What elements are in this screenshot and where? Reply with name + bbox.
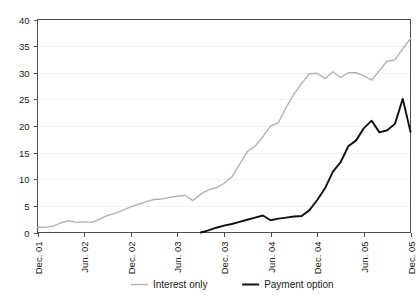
x-axis-tick-labels: Dec. 01Jun. 02Dec. 02Jun. 03Dec. 03Jun. …: [33, 242, 417, 275]
y-tick-label: 5: [24, 201, 29, 212]
y-tick-label: 20: [19, 121, 30, 132]
legend-label: Payment option: [264, 279, 334, 290]
y-tick-label: 25: [19, 94, 30, 105]
line-chart: 0510152025303540 Dec. 01Jun. 02Dec. 02Ju…: [0, 0, 419, 306]
data-series-group: [38, 39, 411, 233]
x-tick-label: Jun. 03: [172, 242, 183, 273]
chart-legend: Interest onlyPayment option: [131, 279, 334, 290]
series-line-interest-only: [38, 39, 411, 228]
x-tick-label: Dec. 01: [33, 242, 44, 275]
chart-container: 0510152025303540 Dec. 01Jun. 02Dec. 02Ju…: [0, 0, 419, 306]
x-tick-label: Dec. 05: [406, 242, 417, 275]
y-tick-label: 0: [24, 228, 29, 239]
y-tick-label: 30: [19, 68, 30, 79]
series-line-payment-option: [201, 99, 411, 233]
x-tick-label: Dec. 03: [219, 242, 230, 275]
y-axis-tick-labels: 0510152025303540: [19, 15, 30, 239]
y-axis-ticks: [34, 21, 38, 234]
x-tick-label: Jun. 02: [79, 242, 90, 273]
y-tick-label: 10: [19, 174, 30, 185]
x-tick-label: Dec. 04: [312, 242, 323, 275]
x-tick-label: Dec. 02: [126, 242, 137, 275]
x-tick-label: Jun. 05: [359, 242, 370, 273]
y-tick-label: 15: [19, 148, 30, 159]
gridlines: [38, 47, 411, 207]
y-tick-label: 35: [19, 41, 30, 52]
x-axis-ticks: [39, 233, 412, 237]
y-tick-label: 40: [19, 15, 30, 26]
x-tick-label: Jun. 04: [266, 242, 277, 273]
legend-label: Interest only: [153, 279, 207, 290]
